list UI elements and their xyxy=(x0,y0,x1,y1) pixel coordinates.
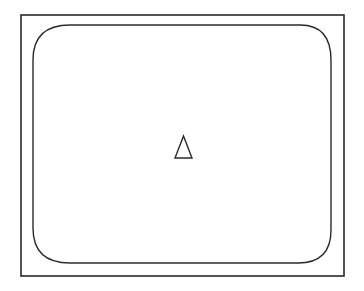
screen-outline xyxy=(33,25,331,263)
diagram-canvas xyxy=(0,0,364,291)
outer-frame xyxy=(21,15,344,276)
triangle-icon xyxy=(175,136,192,158)
